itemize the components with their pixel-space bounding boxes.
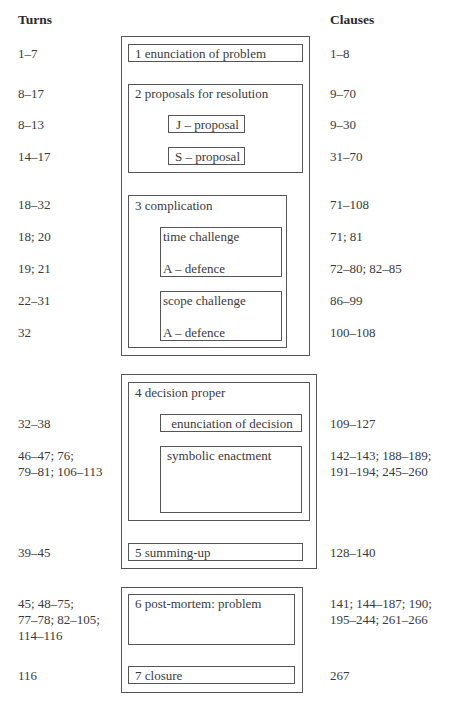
scope-defence-label: A – defence bbox=[163, 325, 225, 340]
enunciation-of-decision-box: enunciation of decision bbox=[160, 414, 302, 432]
time-challenge-clauses: 71; 81 bbox=[330, 229, 363, 244]
enunciation-of-decision-label: enunciation of decision bbox=[163, 416, 301, 431]
enunciation-of-decision-clauses: 109–127 bbox=[330, 416, 376, 431]
scope-challenge-turns: 22–31 bbox=[18, 293, 51, 308]
stage-5-turns: 39–45 bbox=[18, 545, 51, 560]
s-proposal-box: S – proposal bbox=[168, 147, 245, 165]
time-challenge-label: time challenge bbox=[163, 229, 239, 244]
stage-7-clauses: 267 bbox=[330, 668, 350, 683]
enunciation-of-decision-turns: 32–38 bbox=[18, 416, 51, 431]
turns-column-header: Turns bbox=[18, 12, 52, 28]
symbolic-enactment-clauses-line2: 191–194; 245–260 bbox=[330, 464, 428, 479]
clauses-column-header: Clauses bbox=[330, 12, 374, 28]
scope-challenge-label: scope challenge bbox=[163, 293, 246, 308]
scope-challenge-box: scope challenge A – defence bbox=[160, 291, 282, 341]
symbolic-enactment-turns-line1: 46–47; 76; bbox=[18, 448, 74, 463]
scope-challenge-clauses: 86–99 bbox=[330, 293, 363, 308]
time-challenge-turns: 18; 20 bbox=[18, 229, 51, 244]
scope-defence-turns: 32 bbox=[18, 325, 31, 340]
stage-3-clauses: 71–108 bbox=[330, 197, 369, 212]
stage-3-label: 3 complication bbox=[135, 198, 213, 213]
stage-6-box: 6 post-mortem: problem bbox=[128, 594, 295, 645]
stage-6-clauses-line1: 141; 144–187; 190; bbox=[330, 596, 432, 611]
j-proposal-box: J – proposal bbox=[168, 115, 245, 133]
stage-6-turns-line1: 45; 48–75; bbox=[18, 596, 74, 611]
j-proposal-clauses: 9–30 bbox=[330, 117, 356, 132]
s-proposal-label: S – proposal bbox=[171, 149, 244, 164]
stage-2-turns: 8–17 bbox=[18, 86, 44, 101]
stage-5-label: 5 summing-up bbox=[135, 545, 210, 560]
stage-1-box: 1 enunciation of problem bbox=[128, 44, 303, 62]
stage-6-turns-line3: 114–116 bbox=[18, 628, 63, 643]
stage-7-label: 7 closure bbox=[135, 668, 182, 683]
time-defence-turns: 19; 21 bbox=[18, 261, 51, 276]
symbolic-enactment-label: symbolic enactment bbox=[167, 448, 271, 463]
time-challenge-box: time challenge A – defence bbox=[160, 227, 282, 277]
stage-1-clauses: 1–8 bbox=[330, 46, 350, 61]
symbolic-enactment-turns-line2: 79–81; 106–113 bbox=[18, 464, 102, 479]
stage-6-turns-line2: 77–78; 82–105; bbox=[18, 612, 100, 627]
stage-2-clauses: 9–70 bbox=[330, 86, 356, 101]
stage-4-label: 4 decision proper bbox=[135, 385, 225, 400]
s-proposal-clauses: 31–70 bbox=[330, 149, 363, 164]
stage-7-box: 7 closure bbox=[128, 666, 295, 684]
stage-2-label: 2 proposals for resolution bbox=[135, 86, 268, 101]
scope-defence-clauses: 100–108 bbox=[330, 325, 376, 340]
time-defence-label: A – defence bbox=[163, 261, 225, 276]
s-proposal-turns: 14–17 bbox=[18, 149, 51, 164]
stage-6-label: 6 post-mortem: problem bbox=[135, 596, 261, 611]
stage-7-turns: 116 bbox=[18, 668, 37, 683]
j-proposal-label: J – proposal bbox=[171, 117, 244, 132]
stage-5-clauses: 128–140 bbox=[330, 545, 376, 560]
time-defence-clauses: 72–80; 82–85 bbox=[330, 261, 402, 276]
stage-6-clauses-line2: 195–244; 261–266 bbox=[330, 612, 428, 627]
symbolic-enactment-box: symbolic enactment bbox=[160, 446, 302, 513]
symbolic-enactment-clauses-line1: 142–143; 188–189; bbox=[330, 448, 431, 463]
stage-5-box: 5 summing-up bbox=[128, 543, 303, 561]
stage-1-label: 1 enunciation of problem bbox=[135, 46, 266, 61]
stage-1-turns: 1–7 bbox=[18, 46, 38, 61]
j-proposal-turns: 8–13 bbox=[18, 117, 44, 132]
stage-3-turns: 18–32 bbox=[18, 197, 51, 212]
